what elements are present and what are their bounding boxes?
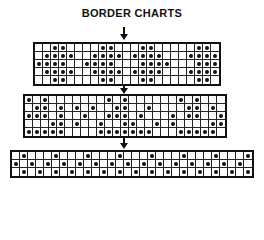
grid-cell: [67, 44, 75, 52]
stitch-dot-cell: [195, 60, 203, 68]
grid-cell: [171, 52, 179, 60]
grid-cell: [187, 44, 195, 52]
stitch-dot-cell: [99, 68, 107, 76]
stitch-dot-cell: [195, 44, 203, 52]
grid-cell: [35, 68, 43, 76]
grid-cell: [68, 160, 76, 168]
stitch-dot-cell: [41, 96, 49, 104]
grid-cell: [89, 96, 97, 104]
stitch-dot-cell: [43, 68, 51, 76]
stitch-dot-cell: [187, 68, 195, 76]
stitch-dot-cell: [212, 152, 220, 160]
grid-cell: [60, 152, 68, 160]
grid-cell: [155, 76, 163, 84]
grid-cell: [155, 44, 163, 52]
stitch-dot-cell: [211, 60, 219, 68]
grid-cell: [177, 120, 185, 128]
stitch-dot-cell: [195, 68, 203, 76]
stitch-dot-cell: [140, 160, 148, 168]
stitch-dot-cell: [209, 128, 217, 136]
stitch-dot-cell: [147, 76, 155, 84]
stitch-dot-cell: [107, 76, 115, 84]
stitch-dot-cell: [105, 96, 113, 104]
stitch-dot-cell: [124, 160, 132, 168]
grid-cell: [132, 160, 140, 168]
grid-cell: [196, 160, 204, 168]
stitch-dot-cell: [148, 152, 156, 160]
stitch-dot-cell: [129, 128, 137, 136]
grid-cell: [163, 76, 171, 84]
stitch-dot-cell: [139, 76, 147, 84]
stitch-dot-cell: [76, 160, 84, 168]
grid-cell: [36, 160, 44, 168]
stitch-dot-cell: [147, 60, 155, 68]
grid-cell: [228, 160, 236, 168]
grid-cell: [145, 112, 153, 120]
stitch-dot-cell: [107, 60, 115, 68]
stitch-dot-cell: [92, 160, 100, 168]
stitch-dot-cell: [195, 52, 203, 60]
stitch-dot-cell: [97, 120, 105, 128]
stitch-dot-cell: [155, 52, 163, 60]
grid-cell: [123, 76, 131, 84]
grid-cell: [89, 112, 97, 120]
grid-cell: [20, 160, 28, 168]
stitch-dot-cell: [44, 160, 52, 168]
stitch-dot-cell: [91, 68, 99, 76]
stitch-dot-cell: [129, 120, 137, 128]
stitch-dot-cell: [203, 76, 211, 84]
stitch-dot-cell: [49, 128, 57, 136]
grid-cell: [209, 96, 217, 104]
stitch-dot-cell: [113, 112, 121, 120]
stitch-dot-cell: [180, 168, 188, 176]
stitch-dot-cell: [99, 76, 107, 84]
stitch-dot-cell: [169, 120, 177, 128]
grid-cell: [161, 112, 169, 120]
stitch-dot-cell: [105, 112, 113, 120]
grid-cell: [97, 96, 105, 104]
grid-cell: [177, 112, 185, 120]
stitch-dot-cell: [107, 52, 115, 60]
grid-cell: [187, 60, 195, 68]
stitch-dot-cell: [20, 168, 28, 176]
grid-cell: [164, 160, 172, 168]
grid-cell: [187, 76, 195, 84]
grid-cell: [91, 76, 99, 84]
stitch-dot-cell: [139, 68, 147, 76]
stitch-dot-cell: [177, 96, 185, 104]
stitch-dot-cell: [211, 68, 219, 76]
stitch-dot-cell: [59, 60, 67, 68]
stitch-dot-cell: [147, 68, 155, 76]
stitch-dot-cell: [164, 168, 172, 176]
stitch-dot-cell: [33, 104, 41, 112]
grid-cell: [169, 96, 177, 104]
stitch-dot-cell: [220, 160, 228, 168]
stitch-dot-cell: [195, 76, 203, 84]
stitch-dot-cell: [193, 96, 201, 104]
grid-cell: [108, 152, 116, 160]
stitch-dot-cell: [180, 152, 188, 160]
grid-cell: [171, 60, 179, 68]
grid-cell: [116, 160, 124, 168]
grid-cell: [67, 60, 75, 68]
grid-cell: [83, 76, 91, 84]
stitch-dot-cell: [60, 160, 68, 168]
stitch-dot-cell: [89, 104, 97, 112]
stitch-dot-cell: [107, 44, 115, 52]
stitch-dot-cell: [107, 68, 115, 76]
grid-cell: [100, 152, 108, 160]
stitch-dot-cell: [67, 52, 75, 60]
stitch-dot-cell: [57, 128, 65, 136]
stitch-dot-cell: [156, 160, 164, 168]
grid-cell: [83, 68, 91, 76]
grid-cell: [123, 60, 131, 68]
stitch-dot-cell: [57, 104, 65, 112]
grid-cell: [140, 168, 148, 176]
stitch-dot-cell: [57, 112, 65, 120]
grid-cell: [137, 104, 145, 112]
stitch-dot-cell: [145, 104, 153, 112]
stitch-dot-cell: [121, 96, 129, 104]
stitch-dot-cell: [203, 44, 211, 52]
grid-cell: [65, 120, 73, 128]
grid-cell: [65, 112, 73, 120]
